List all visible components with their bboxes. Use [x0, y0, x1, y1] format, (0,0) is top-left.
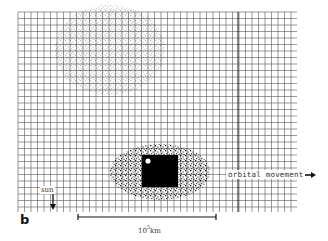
nucleus-highlight-dot — [145, 158, 150, 163]
scale-unit: km — [150, 227, 161, 235]
coma-diagram-figure: b sun orbital movement 105km — [0, 0, 328, 241]
coma-particle-cloud — [0, 0, 328, 241]
coma-diagram-canvas — [0, 0, 328, 241]
panel-label: b — [20, 212, 29, 227]
scale-base: 10 — [138, 227, 147, 235]
orbital-movement-label: orbital movement — [226, 170, 305, 179]
sun-direction-label: sun — [40, 186, 55, 194]
scale-bar-label: 105km — [138, 224, 161, 235]
